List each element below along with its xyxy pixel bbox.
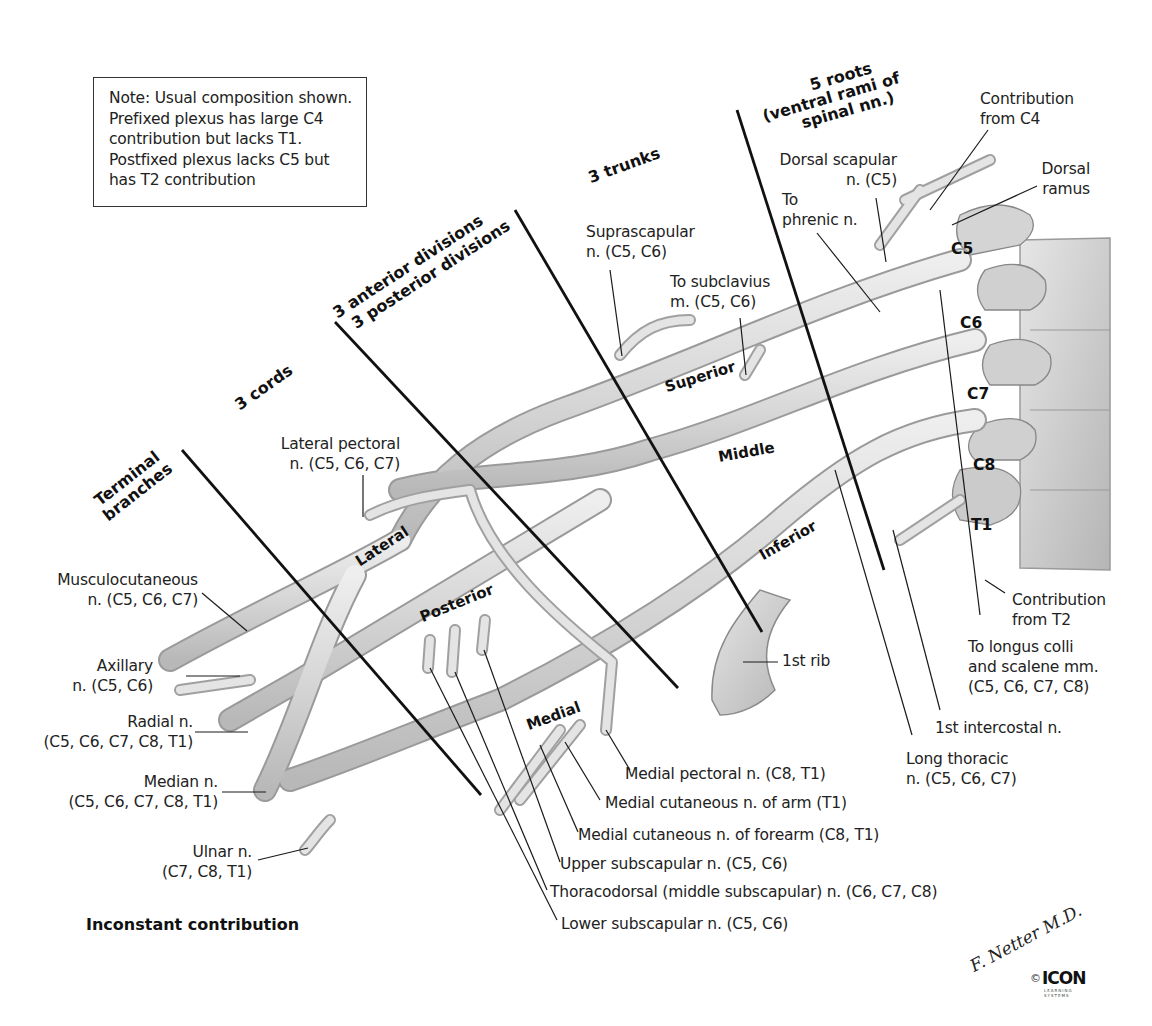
label-line: Dorsal scapular <box>775 150 897 170</box>
label-line: Radial n. <box>30 712 193 732</box>
nerve-trunks <box>170 160 990 850</box>
label-line: Ulnar n. <box>140 842 252 862</box>
label-line: ramus <box>1030 179 1090 199</box>
segment-t1: T1 <box>971 516 992 534</box>
label-contribution-c4: Contribution from C4 <box>980 89 1074 129</box>
label-median: Median n. (C5, C6, C7, C8, T1) <box>55 772 218 812</box>
label-line: (C5, C6, C7, C8) <box>968 677 1098 697</box>
label-line: from C4 <box>980 109 1074 129</box>
label-dorsal-ramus: Dorsal ramus <box>1030 159 1090 199</box>
copyright-symbol: © <box>1030 972 1041 985</box>
label-contribution-t2: Contribution from T2 <box>1012 590 1106 630</box>
label-line: Contribution <box>1012 590 1106 610</box>
icon-publisher-subtitle: LEARNING SYSTEMS <box>1044 988 1073 998</box>
label-line: phrenic n. <box>782 210 858 230</box>
label-medial-pectoral: Medial pectoral n. (C8, T1) <box>625 764 826 784</box>
note-line: contribution but lacks T1. <box>109 129 366 150</box>
netter-signature-logo: F. Netter M.D. © ICON LEARNING SYSTEMS <box>960 918 1070 1003</box>
note-box: Note: Usual composition shown. Prefixed … <box>93 77 367 207</box>
label-line: Axillary <box>60 656 153 676</box>
label-upper-subscapular: Upper subscapular n. (C5, C6) <box>560 854 788 874</box>
first-rib <box>712 590 790 715</box>
segment-c8: C8 <box>973 456 995 474</box>
label-line: (C7, C8, T1) <box>140 862 252 882</box>
label-lateral-pectoral: Lateral pectoral n. (C5, C6, C7) <box>270 434 400 474</box>
label-line: n. (C5, C6) <box>60 676 153 696</box>
label-lower-subscapular: Lower subscapular n. (C5, C6) <box>561 914 788 934</box>
segment-c6: C6 <box>960 314 982 332</box>
label-line: n. (C5, C6, C7) <box>906 769 1017 789</box>
note-line: has T2 contribution <box>109 170 366 191</box>
label-suprascapular: Suprascapular n. (C5, C6) <box>586 222 695 262</box>
label-axillary: Axillary n. (C5, C6) <box>60 656 153 696</box>
label-first-intercostal: 1st intercostal n. <box>935 718 1062 738</box>
label-line: (C5, C6, C7, C8, T1) <box>55 792 218 812</box>
label-radial: Radial n. (C5, C6, C7, C8, T1) <box>30 712 193 752</box>
label-line: Lateral pectoral <box>270 434 400 454</box>
inconstant-contribution-legend: Inconstant contribution <box>86 915 299 934</box>
label-line: n. (C5, C6) <box>586 242 695 262</box>
label-dorsal-scapular: Dorsal scapular n. (C5) <box>775 150 897 190</box>
label-long-thoracic: Long thoracic n. (C5, C6, C7) <box>906 749 1017 789</box>
label-line: Musculocutaneous <box>40 570 198 590</box>
label-to-phrenic: To phrenic n. <box>782 190 858 230</box>
segment-c5: C5 <box>951 240 973 258</box>
note-line: Postfixed plexus lacks C5 but <box>109 150 366 171</box>
note-line: Prefixed plexus has large C4 <box>109 109 366 130</box>
label-line: Median n. <box>55 772 218 792</box>
label-line: Contribution <box>980 89 1074 109</box>
label-line: To <box>782 190 858 210</box>
label-first-rib: 1st rib <box>782 651 830 671</box>
label-line: n. (C5, C6, C7) <box>40 590 198 610</box>
label-line: Suprascapular <box>586 222 695 242</box>
segment-c7: C7 <box>967 385 989 403</box>
label-longus-colli: To longus colli and scalene mm. (C5, C6,… <box>968 637 1098 697</box>
label-to-subclavius: To subclavius m. (C5, C6) <box>670 272 770 312</box>
label-line: Long thoracic <box>906 749 1017 769</box>
label-line: and scalene mm. <box>968 657 1098 677</box>
label-line: (C5, C6, C7, C8, T1) <box>30 732 193 752</box>
label-line: from T2 <box>1012 610 1106 630</box>
label-thoracodorsal: Thoracodorsal (middle subscapular) n. (C… <box>550 882 937 902</box>
note-line: Note: Usual composition shown. <box>109 88 366 109</box>
icon-publisher-logo: ICON <box>1042 968 1085 988</box>
label-line: n. (C5, C6, C7) <box>270 454 400 474</box>
label-medial-cutaneous-forearm: Medial cutaneous n. of forearm (C8, T1) <box>578 825 879 845</box>
label-line: Dorsal <box>1030 159 1090 179</box>
label-ulnar: Ulnar n. (C7, C8, T1) <box>140 842 252 882</box>
label-line: m. (C5, C6) <box>670 292 770 312</box>
label-line: n. (C5) <box>775 170 897 190</box>
label-line: To longus colli <box>968 637 1098 657</box>
label-musculocutaneous: Musculocutaneous n. (C5, C6, C7) <box>40 570 198 610</box>
label-line: To subclavius <box>670 272 770 292</box>
label-medial-cutaneous-arm: Medial cutaneous n. of arm (T1) <box>605 793 847 813</box>
